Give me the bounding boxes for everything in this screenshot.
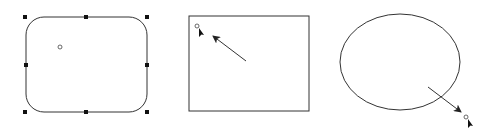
rounded-rectangle-shape[interactable] <box>23 15 149 114</box>
pointer-cursor-icon <box>464 115 473 128</box>
pointer-cursor-icon <box>195 24 204 37</box>
resize-handle[interactable] <box>24 63 28 67</box>
resize-handle[interactable] <box>23 110 27 114</box>
resize-handle[interactable] <box>145 110 149 114</box>
rotation-point-icon[interactable] <box>58 45 62 49</box>
diagram-canvas <box>0 0 489 129</box>
rectangle-shape[interactable] <box>189 16 309 111</box>
resize-arrow <box>213 36 246 61</box>
resize-arrow <box>428 87 461 112</box>
resize-handle[interactable] <box>145 15 149 19</box>
resize-handle[interactable] <box>84 15 88 19</box>
resize-handle[interactable] <box>84 110 88 114</box>
ellipse-shape[interactable] <box>340 14 473 128</box>
resize-handle[interactable] <box>145 63 149 67</box>
resize-handle[interactable] <box>23 15 27 19</box>
selection-handles[interactable] <box>23 15 149 114</box>
